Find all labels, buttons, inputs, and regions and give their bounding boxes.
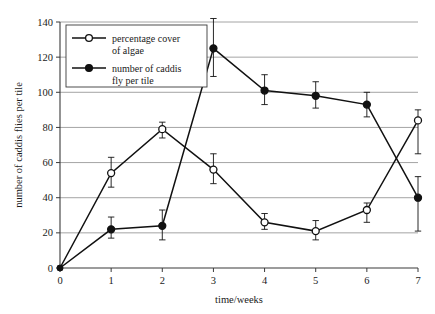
y-tick-group: 020406080100120140 xyxy=(37,17,60,274)
data-point-1-1 xyxy=(108,226,115,233)
data-point-1-0 xyxy=(57,265,62,270)
legend-marker-0 xyxy=(86,35,93,42)
x-tick-label: 0 xyxy=(57,275,62,286)
x-axis-title: time/weeks xyxy=(215,294,263,305)
x-tick-label: 6 xyxy=(364,275,369,286)
data-point-0-7 xyxy=(415,117,422,124)
x-tick-label: 2 xyxy=(160,275,165,286)
x-tick-label: 5 xyxy=(313,275,318,286)
y-axis-title: number of caddis flies per tile xyxy=(13,82,24,208)
data-point-0-3 xyxy=(210,166,217,173)
data-point-1-6 xyxy=(363,101,370,108)
data-point-0-6 xyxy=(363,207,370,214)
data-point-1-3 xyxy=(210,45,217,52)
series-line-0 xyxy=(60,120,418,268)
data-point-0-5 xyxy=(312,228,319,235)
legend-label-1: number of caddis xyxy=(112,63,182,74)
data-point-0-1 xyxy=(108,170,115,177)
x-tick-label: 1 xyxy=(109,275,114,286)
legend-marker-1 xyxy=(86,65,93,72)
x-tick-label: 3 xyxy=(211,275,216,286)
chart-legend: percentage coverof algaenumber of caddis… xyxy=(66,25,207,87)
y-tick-label: 80 xyxy=(43,122,54,133)
y-tick-label: 0 xyxy=(48,263,53,274)
y-tick-label: 40 xyxy=(43,192,54,203)
x-tick-group: 01234567 xyxy=(57,268,420,286)
data-point-1-4 xyxy=(261,87,268,94)
line-chart: 01234567 020406080100120140 percentage c… xyxy=(0,0,435,314)
y-tick-label: 100 xyxy=(37,87,53,98)
x-tick-label: 4 xyxy=(262,275,268,286)
chart-container: 01234567 020406080100120140 percentage c… xyxy=(0,0,435,314)
data-point-0-4 xyxy=(261,219,268,226)
y-tick-label: 120 xyxy=(37,52,53,63)
legend-label-0: percentage cover xyxy=(112,33,181,44)
data-point-1-2 xyxy=(159,222,166,229)
y-tick-label: 20 xyxy=(43,227,54,238)
y-tick-label: 140 xyxy=(37,17,53,28)
x-tick-label: 7 xyxy=(415,275,420,286)
data-point-1-7 xyxy=(415,194,422,201)
legend-label-1-line2: fly per tile xyxy=(112,75,154,86)
data-point-1-5 xyxy=(312,92,319,99)
data-point-0-2 xyxy=(159,126,166,133)
legend-label-0-line2: of algae xyxy=(112,45,144,56)
y-tick-label: 60 xyxy=(43,157,54,168)
